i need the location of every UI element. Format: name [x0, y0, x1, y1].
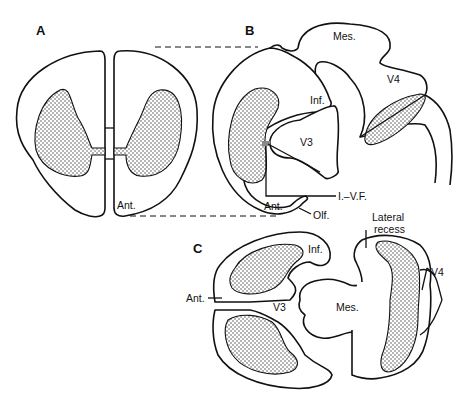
panel-b: B Mes. V4 Inf. V3 I.–V.F. Ant. Olf. — [213, 23, 452, 221]
panel-c-label: C — [193, 241, 203, 256]
panel-b-olf-pointer — [299, 208, 311, 214]
panel-c-lateral-label: Lateral — [372, 211, 404, 223]
panel-b-olf-label: Olf. — [313, 209, 329, 221]
panel-b-mes-label: Mes. — [333, 30, 356, 42]
brain-ventricle-diagram: A Ant. B Mes. V4 — [0, 0, 468, 410]
panel-b-v4-label: V4 — [387, 73, 400, 85]
panel-c-recess-label: recess — [374, 223, 405, 235]
panel-b-v3-label: V3 — [300, 136, 313, 148]
panel-b-label: B — [245, 23, 254, 38]
panel-b-ivf-foramen — [262, 141, 270, 146]
panel-c: C Lateral recess Inf. V4 Ant. V3 Mes. — [186, 211, 444, 388]
panel-c-mes-label: Mes. — [336, 301, 359, 313]
panel-a: A Ant. — [16, 23, 197, 217]
panel-b-ivf-label: I.–V.F. — [338, 190, 367, 202]
panel-b-inf-label: Inf. — [310, 94, 325, 106]
panel-a-label: A — [36, 23, 46, 38]
panel-c-ant-label: Ant. — [186, 292, 205, 304]
panel-b-ant-label: Ant. — [264, 200, 283, 212]
panel-a-ant-label: Ant. — [117, 199, 136, 211]
panel-c-inf-label: Inf. — [308, 243, 323, 255]
panel-c-v3-label: V3 — [273, 301, 286, 313]
panel-c-v4-label: V4 — [431, 266, 444, 278]
